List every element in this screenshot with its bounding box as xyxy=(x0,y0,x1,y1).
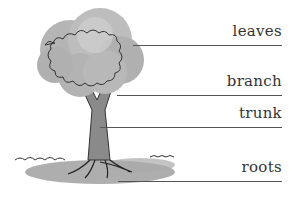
label-leaves: leaves xyxy=(233,22,282,40)
leaves-pointer-line xyxy=(133,45,282,46)
trunk xyxy=(82,86,112,160)
roots-pointer-line xyxy=(118,181,282,182)
trunk-pointer-line xyxy=(100,127,282,128)
tree-diagram: leaves branch trunk roots xyxy=(0,0,295,198)
label-trunk: trunk xyxy=(239,104,282,122)
label-roots: roots xyxy=(242,158,282,176)
branch-pointer-line xyxy=(117,95,282,96)
leaves-canopy xyxy=(37,8,144,97)
label-branch: branch xyxy=(227,72,282,90)
